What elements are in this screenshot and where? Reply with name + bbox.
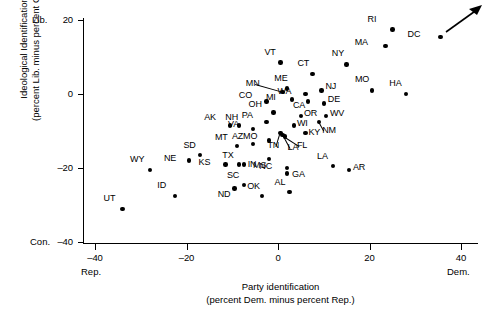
data-point-label: AZ: [232, 132, 243, 141]
data-point: [331, 164, 335, 168]
data-point-label: RI: [368, 15, 377, 24]
data-point-label: WA: [278, 87, 292, 96]
data-point: [390, 27, 394, 31]
data-point-label: WI: [297, 119, 308, 128]
x-axis-tick-label: –40: [75, 252, 115, 263]
data-point: [173, 194, 177, 198]
data-point-label: NE: [164, 154, 176, 163]
data-point-label: TX: [222, 151, 233, 160]
x-axis-tick-label: 0: [258, 252, 298, 263]
data-point: [278, 60, 282, 64]
x-axis-tick: [370, 244, 371, 250]
data-point-label: ND: [218, 190, 231, 199]
data-point-label: MO: [243, 132, 257, 141]
x-axis-tick: [187, 244, 188, 250]
data-point: [264, 120, 268, 124]
data-point: [292, 123, 296, 127]
x-axis-title-line1: Party identification: [83, 281, 478, 294]
x-axis-tick-label: 20: [350, 252, 390, 263]
data-point-label: LA: [317, 152, 328, 161]
data-point: [120, 207, 124, 211]
data-point: [237, 162, 241, 166]
trend-arrow-annotation: [444, 4, 484, 34]
data-point-label: UT: [104, 194, 116, 203]
y-axis-line: [83, 18, 84, 244]
y-axis-tick: [78, 94, 84, 95]
data-point-label: VT: [265, 48, 276, 57]
data-point: [324, 114, 328, 118]
data-point: [306, 99, 310, 103]
data-point-label: ME: [274, 74, 287, 83]
data-point: [438, 35, 442, 39]
data-point: [271, 110, 275, 114]
scatter-plot-figure: Ideological Identification (percent Lib.…: [0, 0, 487, 316]
data-point-label: WV: [330, 109, 344, 118]
y-axis-tick: [78, 20, 84, 21]
data-point-label: SC: [227, 171, 239, 180]
data-point-label: MA: [355, 38, 368, 47]
data-point-label: AR: [353, 163, 365, 172]
data-point-label: OK: [247, 182, 260, 191]
data-point-label: ID: [157, 181, 166, 190]
data-point-label: OH: [249, 100, 262, 109]
data-point-label: GA: [292, 170, 305, 179]
x-axis-pole-label-rep: Rep.: [81, 266, 101, 277]
data-point-label: MO: [355, 75, 369, 84]
data-point: [232, 186, 236, 190]
data-point-label: DC: [408, 30, 421, 39]
data-point-label: CT: [298, 59, 310, 68]
x-axis-title: Party identification (percent Dem. minus…: [83, 281, 478, 306]
data-point-label: VA: [228, 120, 239, 129]
data-point-label: AL: [275, 178, 286, 187]
data-point: [285, 166, 289, 170]
data-point: [383, 44, 387, 48]
x-axis-tick: [278, 244, 279, 250]
data-point: [148, 168, 152, 172]
data-point: [285, 171, 289, 175]
y-axis-tick-label: –20: [33, 162, 73, 173]
y-axis-tick-label: –40: [33, 236, 73, 247]
data-point: [235, 144, 239, 148]
y-axis-tick: [78, 168, 84, 169]
data-point: [242, 162, 246, 166]
data-point: [370, 88, 374, 92]
data-point: [242, 183, 246, 187]
y-axis-tick-label: 0: [33, 88, 73, 99]
x-axis-tick: [95, 244, 96, 250]
data-point: [310, 72, 314, 76]
data-point: [187, 158, 191, 162]
data-point-label: NJ: [326, 82, 337, 91]
data-point: [223, 162, 227, 166]
data-point: [287, 190, 291, 194]
data-point: [347, 168, 351, 172]
data-point: [319, 88, 323, 92]
data-point-label: OR: [304, 109, 317, 118]
data-point-label: NC: [259, 162, 272, 171]
data-point: [344, 62, 348, 66]
data-point-label: PA: [242, 111, 253, 120]
data-point-label: DE: [328, 95, 340, 104]
data-point: [260, 194, 264, 198]
data-point-label: KY: [308, 128, 320, 137]
x-axis-line: [83, 243, 478, 244]
data-point-label: MI: [266, 93, 276, 102]
data-point-label: IN: [248, 160, 257, 169]
data-point: [404, 92, 408, 96]
data-point-label: AK: [204, 113, 216, 122]
x-axis-pole-label-dem: Dem.: [447, 266, 470, 277]
x-axis-title-line2: (percent Dem. minus percent Rep.): [83, 294, 478, 307]
data-point-label: MT: [215, 133, 228, 142]
data-point-label: NY: [332, 49, 344, 58]
data-point-label: HA: [389, 79, 401, 88]
y-axis-tick-label: 20: [33, 14, 73, 25]
data-point-label: WY: [130, 155, 144, 164]
data-point: [303, 92, 307, 96]
data-point: [322, 101, 326, 105]
y-axis-tick: [78, 242, 84, 243]
x-axis-tick: [461, 244, 462, 250]
data-point: [303, 131, 307, 135]
y-axis-title-line1: Ideological Identification: [18, 0, 30, 148]
x-axis-tick-label: 40: [441, 252, 481, 263]
data-point-label: SD: [183, 141, 195, 150]
data-point: [251, 142, 255, 146]
